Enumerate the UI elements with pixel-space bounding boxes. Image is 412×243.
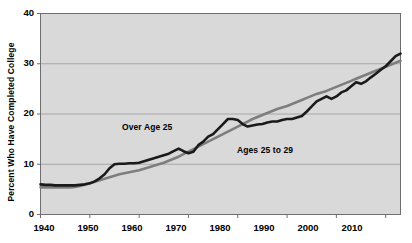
series-label-over-age-25: Over Age 25: [122, 122, 172, 132]
chart-figure: Percent Who Have Completed College 40 30…: [0, 0, 412, 243]
plot-area: [0, 0, 412, 243]
series-label-ages-25-to-29: Ages 25 to 29: [237, 145, 293, 155]
